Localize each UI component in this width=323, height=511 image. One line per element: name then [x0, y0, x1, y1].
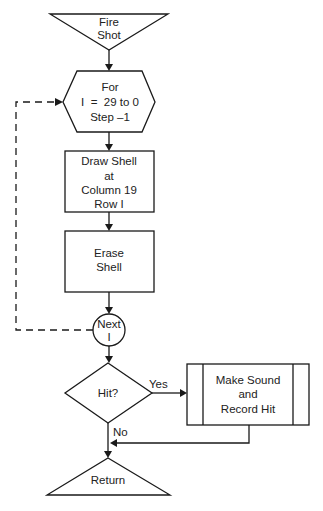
next-label-line-2: I	[107, 331, 110, 343]
connector-yes-to-process: Yes	[149, 378, 187, 397]
loop-label-line-2: I = 29 to 0	[81, 96, 139, 108]
connector-erase-to-next	[105, 292, 113, 314]
arrow-down-icon	[105, 307, 113, 314]
process-node-draw-shell: Draw Shell at Column 19 Row I	[65, 151, 154, 212]
loop-label-line-1: For	[101, 81, 118, 93]
process-label-line-1: Make Sound	[216, 374, 281, 386]
draw-label-line-1: Draw Shell	[81, 155, 137, 167]
end-node-return: Return	[47, 458, 170, 495]
loop-back-dashed-connector	[16, 98, 93, 330]
connector-loop-to-draw	[105, 132, 113, 151]
connector-next-to-decision	[105, 346, 113, 363]
loop-node-for: For I = 29 to 0 Step –1	[63, 71, 155, 132]
arrow-left-icon	[110, 439, 117, 447]
process-node-erase-shell: Erase Shell	[65, 231, 154, 292]
arrow-right-icon	[180, 389, 187, 397]
start-node-fire-shot: Fire Shot	[50, 14, 168, 50]
loop-label-line-3: Step –1	[90, 111, 130, 123]
yes-edge-label: Yes	[149, 378, 168, 390]
erase-label-line-1: Erase	[94, 247, 124, 259]
process-label-line-2: and	[238, 388, 257, 400]
draw-label-line-2: at	[104, 170, 114, 182]
erase-label-line-2: Shell	[96, 261, 122, 273]
return-label: Return	[91, 474, 126, 486]
connector-draw-to-erase	[105, 212, 113, 231]
start-label-line-2: Shot	[97, 29, 121, 41]
draw-label-line-3: Column 19	[81, 184, 137, 196]
arrow-down-icon	[104, 451, 112, 458]
decision-label: Hit?	[98, 387, 118, 399]
arrow-down-icon	[105, 224, 113, 231]
arrow-down-icon	[105, 356, 113, 363]
process-label-line-3: Record Hit	[221, 403, 276, 415]
arrow-right-icon	[55, 98, 63, 106]
decision-node-hit: Hit?	[65, 363, 152, 423]
arrow-down-icon	[105, 144, 113, 151]
draw-label-line-4: Row I	[94, 198, 123, 210]
flowchart: Fire Shot For I = 29 to 0 Step –1 Draw S…	[0, 0, 323, 511]
connector-process-to-return	[110, 425, 249, 447]
connector-node-next: Next I	[93, 314, 125, 346]
start-label-line-1: Fire	[99, 16, 119, 28]
connector-start-to-loop	[105, 50, 113, 71]
no-edge-label: No	[113, 426, 128, 438]
next-label-line-1: Next	[97, 318, 121, 330]
arrow-down-icon	[105, 64, 113, 71]
subroutine-node-make-sound: Make Sound and Record Hit	[187, 364, 309, 425]
